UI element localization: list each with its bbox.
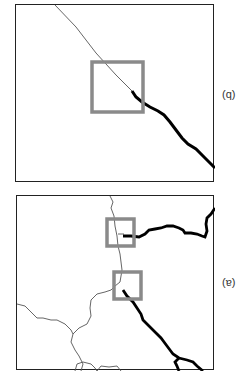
panel-a-drawing bbox=[17, 196, 215, 371]
panel-b-zoomed-map bbox=[15, 4, 214, 182]
thin-boundary bbox=[97, 366, 121, 371]
thin-boundary bbox=[75, 362, 97, 371]
panel-label-a: (ɐ) bbox=[222, 276, 235, 288]
highlight-box bbox=[92, 62, 143, 112]
highlight-box-upper bbox=[107, 219, 134, 246]
thick-line bbox=[123, 290, 203, 371]
panel-b-drawing bbox=[16, 5, 215, 183]
panel-a-overview-map bbox=[16, 195, 214, 370]
thin-boundary bbox=[110, 196, 122, 282]
thin-boundary bbox=[17, 304, 73, 334]
thick-line bbox=[123, 208, 215, 237]
panel-label-b: (q) bbox=[222, 88, 235, 100]
thick-line bbox=[175, 358, 179, 371]
